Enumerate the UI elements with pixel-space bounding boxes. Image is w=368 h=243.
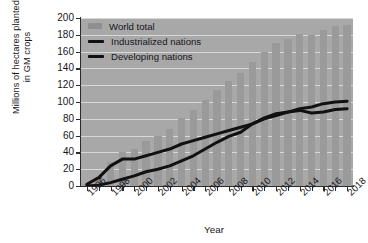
y-tick-label: 100 xyxy=(48,97,74,107)
y-axis-line xyxy=(80,17,81,187)
legend-item-developing-nations: Developing nations xyxy=(88,51,201,63)
y-tick-label: 140 xyxy=(48,63,74,73)
y-tick-label: 80 xyxy=(48,114,74,124)
y-tick-label: 180 xyxy=(48,30,74,40)
line-swatch-icon xyxy=(88,40,104,43)
y-tick xyxy=(76,18,80,19)
y-axis-title: Millions of hectares planted in GM crops xyxy=(11,0,33,137)
y-tick xyxy=(76,52,80,53)
y-tick xyxy=(76,35,80,36)
chart-legend: World total Industrialized nations Devel… xyxy=(88,20,201,63)
legend-item-industrialized-nations: Industrialized nations xyxy=(88,35,201,47)
bar-swatch-icon xyxy=(88,23,102,29)
line-industrialized-nations xyxy=(87,109,347,185)
y-axis-tick-labels: 200180160140120100806040200 xyxy=(46,0,74,200)
y-tick xyxy=(76,68,80,69)
y-tick-label: 60 xyxy=(48,131,74,141)
line-swatch-icon xyxy=(88,55,104,58)
y-tick xyxy=(76,136,80,137)
y-tick xyxy=(76,186,80,187)
legend-label: Industrialized nations xyxy=(111,36,201,47)
legend-label: Developing nations xyxy=(111,51,193,62)
x-axis-title: Year xyxy=(0,224,362,235)
y-tick-label: 120 xyxy=(48,80,74,90)
line-developing-nations xyxy=(87,101,347,186)
y-tick xyxy=(76,119,80,120)
y-tick-label: 20 xyxy=(48,164,74,174)
y-tick xyxy=(76,102,80,103)
y-tick-label: 200 xyxy=(48,13,74,23)
y-tick xyxy=(76,152,80,153)
y-tick xyxy=(76,169,80,170)
y-tick-label: 40 xyxy=(48,147,74,157)
legend-label: World total xyxy=(109,21,155,32)
y-tick xyxy=(76,85,80,86)
y-tick-label: 0 xyxy=(48,181,74,191)
legend-item-world-total: World total xyxy=(88,20,201,32)
y-tick-label: 160 xyxy=(48,47,74,57)
